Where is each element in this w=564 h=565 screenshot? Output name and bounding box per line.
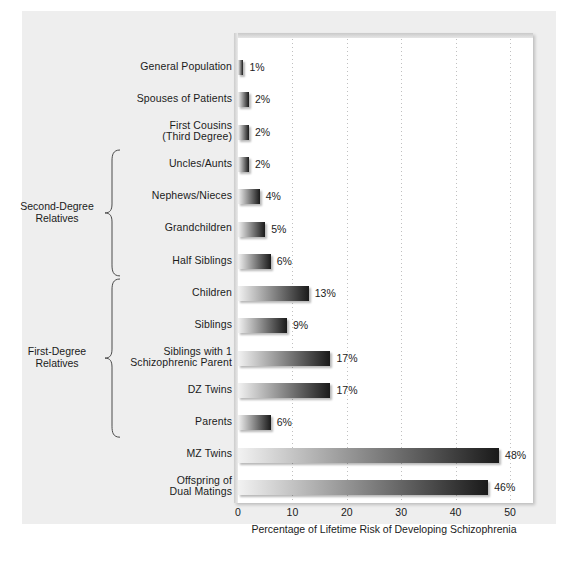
bar bbox=[238, 286, 309, 301]
category-label: Uncles/Aunts bbox=[169, 158, 232, 170]
x-tick-label: 40 bbox=[441, 506, 471, 518]
bar bbox=[238, 415, 271, 430]
gridline-40 bbox=[456, 39, 457, 503]
bar-value-label: 1% bbox=[249, 60, 264, 75]
bar bbox=[238, 480, 488, 495]
bar bbox=[238, 318, 287, 333]
category-label: General Population bbox=[140, 61, 232, 73]
bar-value-label: 46% bbox=[494, 480, 515, 495]
category-label: Siblings with 1 Schizophrenic Parent bbox=[130, 346, 232, 369]
bar-value-label: 6% bbox=[277, 254, 292, 269]
bar bbox=[238, 125, 249, 140]
category-label: Offspring of Dual Matings bbox=[170, 475, 232, 498]
bar bbox=[238, 189, 260, 204]
schizophrenia-risk-bar-chart: General PopulationSpouses of PatientsFir… bbox=[0, 0, 564, 565]
gridline-50 bbox=[510, 39, 511, 503]
x-tick-label: 50 bbox=[495, 506, 525, 518]
gridline-10 bbox=[292, 39, 293, 503]
category-label: Spouses of Patients bbox=[137, 93, 232, 105]
bar-value-label: 17% bbox=[336, 351, 357, 366]
x-tick-label: 20 bbox=[332, 506, 362, 518]
bar bbox=[238, 448, 499, 463]
x-axis-title: Percentage of Lifetime Risk of Developin… bbox=[234, 523, 534, 535]
bar bbox=[238, 222, 265, 237]
gridline-20 bbox=[347, 39, 348, 503]
bar-value-label: 4% bbox=[266, 189, 281, 204]
category-label: Grandchildren bbox=[165, 222, 232, 234]
bar bbox=[238, 351, 330, 366]
bar-value-label: 6% bbox=[277, 415, 292, 430]
group-brace bbox=[104, 278, 120, 438]
category-label: DZ Twins bbox=[188, 384, 232, 396]
bar bbox=[238, 157, 249, 172]
plot-frame-top-edge bbox=[234, 33, 533, 38]
gridline-30 bbox=[401, 39, 402, 503]
category-label: Nephews/Nieces bbox=[152, 190, 232, 202]
x-tick-label: 30 bbox=[386, 506, 416, 518]
bar bbox=[238, 383, 330, 398]
bar-value-label: 2% bbox=[255, 157, 270, 172]
group-label: Second-Degree Relatives bbox=[14, 200, 100, 224]
category-label: First Cousins (Third Degree) bbox=[162, 120, 232, 143]
bar-value-label: 17% bbox=[336, 383, 357, 398]
bar-value-label: 48% bbox=[505, 448, 526, 463]
bar bbox=[238, 254, 271, 269]
category-label: Half Siblings bbox=[172, 255, 232, 267]
chart-page: General PopulationSpouses of PatientsFir… bbox=[0, 0, 564, 565]
bar-value-label: 2% bbox=[255, 92, 270, 107]
category-label: MZ Twins bbox=[186, 448, 232, 460]
bar-value-label: 2% bbox=[255, 125, 270, 140]
x-tick-label: 0 bbox=[223, 506, 253, 518]
category-label: Parents bbox=[195, 416, 232, 428]
group-label: First-Degree Relatives bbox=[14, 345, 100, 369]
bar-value-label: 9% bbox=[293, 318, 308, 333]
bar bbox=[238, 92, 249, 107]
bar-value-label: 13% bbox=[315, 286, 336, 301]
bar-value-label: 5% bbox=[271, 222, 286, 237]
group-brace bbox=[104, 149, 120, 277]
bar bbox=[238, 60, 243, 75]
x-tick-label: 10 bbox=[277, 506, 307, 518]
category-label: Children bbox=[192, 287, 232, 299]
category-label: Siblings bbox=[194, 319, 232, 331]
